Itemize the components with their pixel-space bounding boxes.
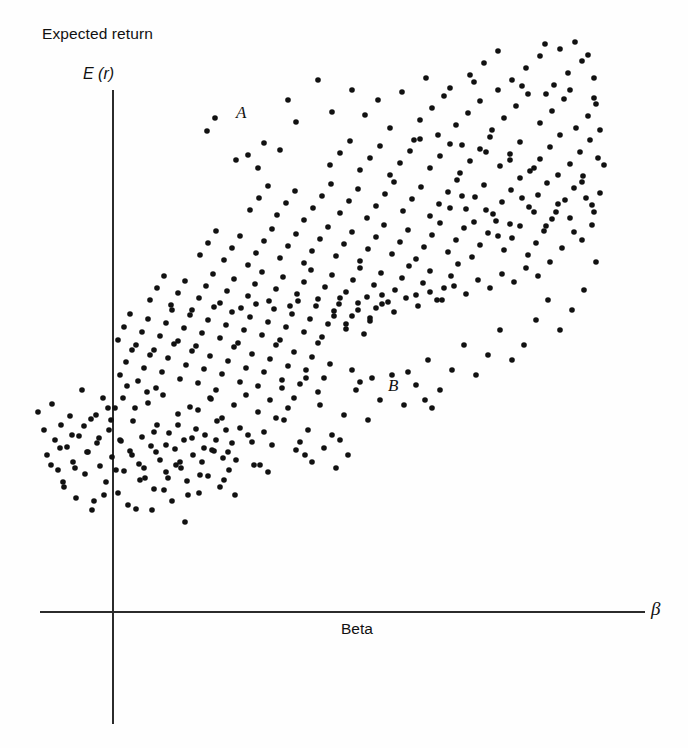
- scatter-point: [195, 407, 201, 413]
- scatter-point: [537, 156, 543, 162]
- scatter-point: [274, 212, 280, 218]
- scatter-point: [547, 144, 553, 150]
- scatter-point: [567, 87, 573, 93]
- scatter-point: [205, 317, 211, 323]
- scatter-points-layer: [35, 39, 607, 525]
- scatter-point: [435, 132, 441, 138]
- scatter-point: [229, 245, 235, 251]
- scatter-point: [401, 402, 407, 408]
- scatter-point: [137, 477, 143, 483]
- scatter-point: [593, 101, 599, 107]
- scatter-point: [243, 365, 249, 371]
- scatter-point: [572, 39, 578, 45]
- scatter-point: [551, 82, 557, 88]
- scatter-point: [265, 469, 271, 475]
- scatter-point: [279, 377, 285, 383]
- scatter-point: [265, 319, 271, 325]
- scatter-point: [477, 242, 483, 248]
- scatter-point: [349, 87, 355, 93]
- scatter-point: [379, 292, 385, 298]
- scatter-point: [144, 389, 150, 395]
- scatter-point: [507, 157, 513, 163]
- scatter-point: [249, 351, 255, 357]
- scatter-point: [219, 415, 225, 421]
- scatter-point: [501, 115, 507, 121]
- scatter-point: [233, 157, 239, 163]
- scatter-point: [413, 256, 419, 262]
- scatter-point: [148, 443, 154, 449]
- scatter-point: [151, 429, 157, 435]
- scatter-point: [251, 462, 257, 468]
- scatter-point: [89, 507, 95, 513]
- scatter-point: [151, 347, 157, 353]
- scatter-point: [547, 259, 553, 265]
- scatter-point: [451, 283, 457, 289]
- scatter-point: [541, 228, 547, 234]
- scatter-point: [418, 184, 424, 190]
- scatter-point: [163, 320, 169, 326]
- scatter-point: [325, 321, 331, 327]
- scatter-point: [469, 254, 475, 260]
- scatter-point: [481, 60, 487, 66]
- scatter-point: [283, 324, 289, 330]
- scatter-point: [207, 353, 213, 359]
- scatter-point: [271, 306, 277, 312]
- scatter-point: [190, 452, 196, 458]
- scatter-point: [88, 416, 94, 422]
- scatter-point: [387, 172, 393, 178]
- scatter-point: [277, 337, 283, 343]
- scatter-point: [245, 262, 251, 268]
- scatter-point: [109, 454, 115, 460]
- scatter-point: [185, 492, 191, 498]
- scatter-point: [163, 469, 169, 475]
- scatter-point: [483, 207, 489, 213]
- scatter-point: [595, 155, 601, 161]
- scatter-point: [60, 479, 66, 485]
- scatter-point: [427, 268, 433, 274]
- scatter-point: [195, 380, 201, 386]
- scatter-point: [465, 110, 471, 116]
- scatter-point: [526, 204, 532, 210]
- scatter-point: [220, 455, 226, 461]
- scatter-point: [322, 284, 328, 290]
- scatter-point: [517, 175, 523, 181]
- scatter-point: [459, 193, 465, 199]
- scatter-point: [487, 134, 493, 140]
- scatter-point: [297, 381, 303, 387]
- scatter-point: [132, 405, 138, 411]
- scatter-point: [355, 186, 361, 192]
- scatter-point: [58, 422, 64, 428]
- scatter-point: [405, 369, 411, 375]
- scatter-point: [281, 417, 287, 423]
- scatter-point: [301, 329, 307, 335]
- scatter-point: [389, 251, 395, 257]
- scatter-point: [571, 229, 577, 235]
- scatter-point: [160, 392, 166, 398]
- scatter-point: [333, 253, 339, 259]
- scatter-point: [567, 215, 573, 221]
- scatter-point: [289, 311, 295, 317]
- scatter-point: [581, 287, 587, 293]
- scatter-point: [265, 183, 271, 189]
- scatter-point: [93, 412, 99, 418]
- scatter-point: [196, 490, 202, 496]
- scatter-point: [543, 223, 549, 229]
- scatter-point: [166, 430, 172, 436]
- scatter-plot-figure: Expected return E (r) Beta β A B: [0, 0, 688, 748]
- scatter-point: [96, 435, 102, 441]
- scatter-point: [341, 241, 347, 247]
- scatter-point: [579, 58, 585, 64]
- scatter-point: [292, 188, 298, 194]
- scatter-point: [447, 141, 453, 147]
- scatter-point: [447, 205, 453, 211]
- scatter-point: [555, 201, 561, 207]
- scatter-point: [61, 484, 67, 490]
- scatter-point: [79, 387, 85, 393]
- scatter-point: [196, 295, 202, 301]
- scatter-point: [229, 440, 235, 446]
- scatter-point: [301, 217, 307, 223]
- scatter-point: [147, 352, 153, 358]
- scatter-point: [519, 195, 525, 201]
- scatter-point: [245, 293, 251, 299]
- scatter-point: [593, 259, 599, 265]
